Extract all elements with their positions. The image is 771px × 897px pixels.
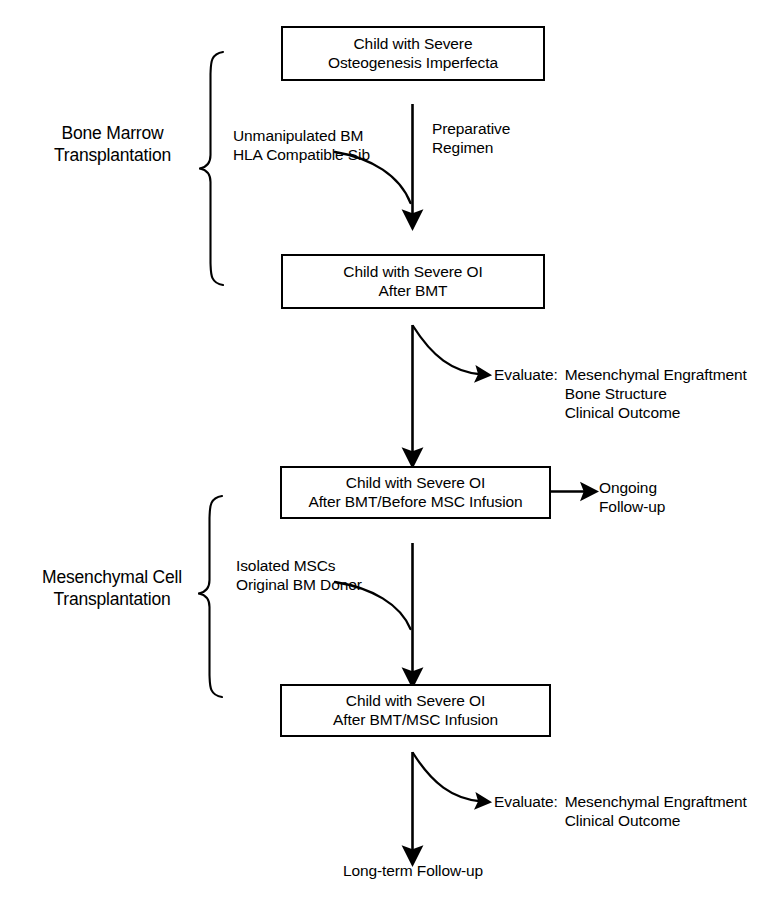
brace-bone-marrow-transplantation — [200, 52, 223, 285]
side-output-line2: Follow-up — [599, 498, 665, 517]
evaluate-item: Mesenchymal Engraftment — [565, 792, 747, 811]
evaluate-items: Mesenchymal Engraftment Bone Structure C… — [565, 365, 747, 423]
edge-label-line1: Isolated MSCs — [236, 557, 362, 576]
node-box-line1: Child with Severe — [354, 35, 473, 53]
group-label-line2: Transplantation — [30, 145, 195, 167]
edge-label-line1: Unmanipulated BM — [233, 127, 370, 146]
evaluate-label: Evaluate: — [494, 365, 565, 423]
flowchart-canvas: Bone Marrow Transplantation Mesenchymal … — [0, 0, 771, 897]
node-box-line2: After BMT/Before MSC Infusion — [308, 493, 522, 511]
node-box-after-msc-infusion[interactable]: Child with Severe OI After BMT/MSC Infus… — [280, 684, 551, 737]
connector-evaluate-2 — [413, 753, 482, 802]
group-label-bone-marrow-transplantation: Bone Marrow Transplantation — [30, 123, 195, 167]
group-label-line1: Bone Marrow — [30, 123, 195, 145]
node-box-before-msc-infusion[interactable]: Child with Severe OI After BMT/Before MS… — [280, 466, 551, 519]
evaluate-block-after-bmt: Evaluate: Mesenchymal Engraftment Bone S… — [494, 365, 747, 423]
group-label-mesenchymal-cell-transplantation: Mesenchymal Cell Transplantation — [22, 567, 202, 611]
evaluate-item: Bone Structure — [565, 384, 747, 403]
brace-mesenchymal-cell-transplantation — [199, 496, 222, 697]
node-box-child-severe-oi[interactable]: Child with Severe Osteogenesis Imperfect… — [281, 26, 545, 81]
node-box-line2: After BMT/MSC Infusion — [333, 711, 498, 729]
group-label-line2: Transplantation — [22, 589, 202, 611]
terminal-label-long-term-followup: Long-term Follow-up — [313, 862, 513, 881]
group-label-line1: Mesenchymal Cell — [22, 567, 202, 589]
edge-label-line2: Original BM Donor — [236, 576, 362, 595]
node-box-line2: After BMT — [379, 282, 448, 300]
node-box-line1: Child with Severe OI — [346, 474, 485, 492]
connector-evaluate-1 — [413, 326, 482, 375]
node-box-line1: Child with Severe OI — [346, 692, 485, 710]
evaluate-items: Mesenchymal Engraftment Clinical Outcome — [565, 792, 747, 830]
edge-label-line2: Regimen — [432, 139, 510, 158]
edge-label-preparative-regimen: Preparative Regimen — [432, 120, 510, 158]
evaluate-item: Clinical Outcome — [565, 403, 747, 422]
edge-label-line2: HLA Compatible Sib — [233, 146, 370, 165]
edge-label-isolated-mscs: Isolated MSCs Original BM Donor — [236, 557, 362, 595]
side-output-ongoing-followup: Ongoing Follow-up — [599, 479, 665, 517]
edge-label-line1: Preparative — [432, 120, 510, 139]
node-box-line2: Osteogenesis Imperfecta — [328, 54, 498, 72]
evaluate-label: Evaluate: — [494, 792, 565, 830]
node-box-after-bmt[interactable]: Child with Severe OI After BMT — [281, 254, 545, 309]
terminal-label-text: Long-term Follow-up — [313, 862, 513, 881]
side-output-line1: Ongoing — [599, 479, 665, 498]
evaluate-item: Mesenchymal Engraftment — [565, 365, 747, 384]
evaluate-block-after-msc: Evaluate: Mesenchymal Engraftment Clinic… — [494, 792, 747, 830]
evaluate-item: Clinical Outcome — [565, 811, 747, 830]
node-box-line1: Child with Severe OI — [343, 263, 482, 281]
edge-label-unmanipulated-bm: Unmanipulated BM HLA Compatible Sib — [233, 127, 370, 165]
